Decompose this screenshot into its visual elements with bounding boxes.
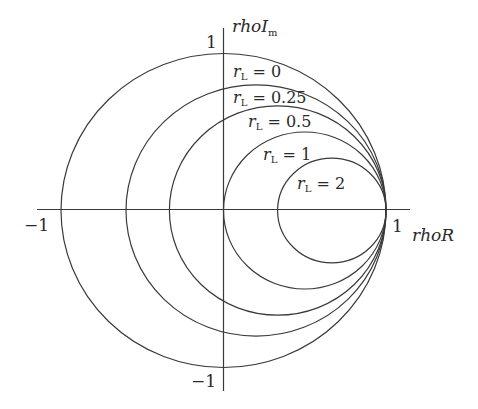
- label-rL-1: rL = 1: [263, 145, 311, 165]
- vertical-tick-positive: 1: [206, 32, 217, 52]
- label-rL-0.25: rL = 0.25: [233, 88, 307, 108]
- label-rL-0: rL = 0: [233, 62, 281, 82]
- label-rL-2: rL = 2: [297, 174, 345, 194]
- horizontal-tick-positive: 1: [392, 216, 403, 236]
- vertical-tick-negative: −1: [191, 371, 216, 391]
- horizontal-tick-negative: −1: [24, 215, 49, 235]
- label-rL-0.5: rL = 0.5: [248, 112, 311, 132]
- horizontal-axis-label: rhoR: [412, 225, 454, 245]
- vertical-axis-label: rhoIm: [232, 16, 278, 38]
- smith-chart-diagram: 1 −1 −1 1 rhoIm rhoR rL = 0 rL = 0.25 rL…: [0, 0, 478, 409]
